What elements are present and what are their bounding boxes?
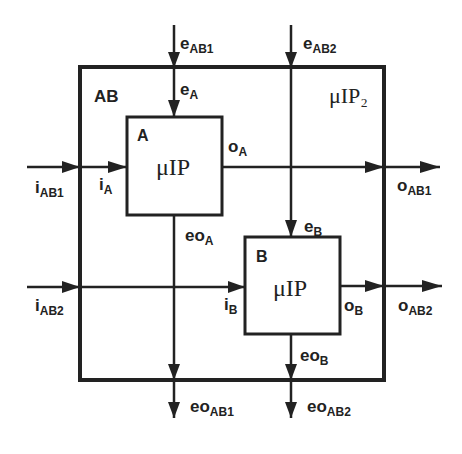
arrow-o-b-icon [365,280,384,292]
label-o-ab1: oAB1 [397,176,432,198]
arrow-o-ab1-icon [420,161,440,173]
arrow-i-ab2-icon [62,281,80,293]
arrow-i-ab1-icon [62,161,80,173]
outer-block-type: μIP₂ [329,83,368,108]
label-o-ab2: oAB2 [398,296,433,318]
signal-line-a-vertical [27,25,442,418]
label-i-ab2: iAB2 [35,296,64,318]
label-o-b: oB [344,296,363,318]
block-b-type: μIP [273,275,307,301]
label-i-a: iA [99,175,113,197]
label-eo-a: eoA [185,226,214,248]
label-e-ab1: eAB1 [180,34,214,56]
label-i-ab1: iAB1 [35,178,64,200]
label-e-ab2: eAB2 [303,34,337,56]
block-a-type: μIP [156,154,190,180]
block-a-name: A [137,127,149,144]
label-eo-ab2: eoAB2 [307,397,351,419]
arrow-eo-b-icon [285,364,297,380]
label-o-a: oA [228,137,247,159]
arrow-i-a-icon [108,161,127,173]
label-eo-b: eoB [300,346,329,368]
arrow-eo-ab2-icon [285,402,297,418]
block-b-name: B [256,248,268,265]
label-i-b: iB [224,295,238,317]
arrow-e-a-icon [168,100,180,117]
arrow-e-b-icon [285,220,297,237]
arrow-i-b-icon [228,281,245,293]
arrow-eo-a-icon [168,364,180,380]
outer-block-name: AB [94,87,119,106]
label-e-a: eA [180,80,198,102]
label-eo-ab1: eoAB1 [190,397,234,419]
arrow-o-a-icon [365,161,384,173]
label-e-b: eB [304,217,322,239]
arrow-o-ab2-icon [422,280,442,292]
block-diagram: AB μIP₂ A μIP B μIP eAB1 eA eAB2 eB iAB1… [0,0,462,454]
arrow-eo-ab1-icon [168,402,180,418]
